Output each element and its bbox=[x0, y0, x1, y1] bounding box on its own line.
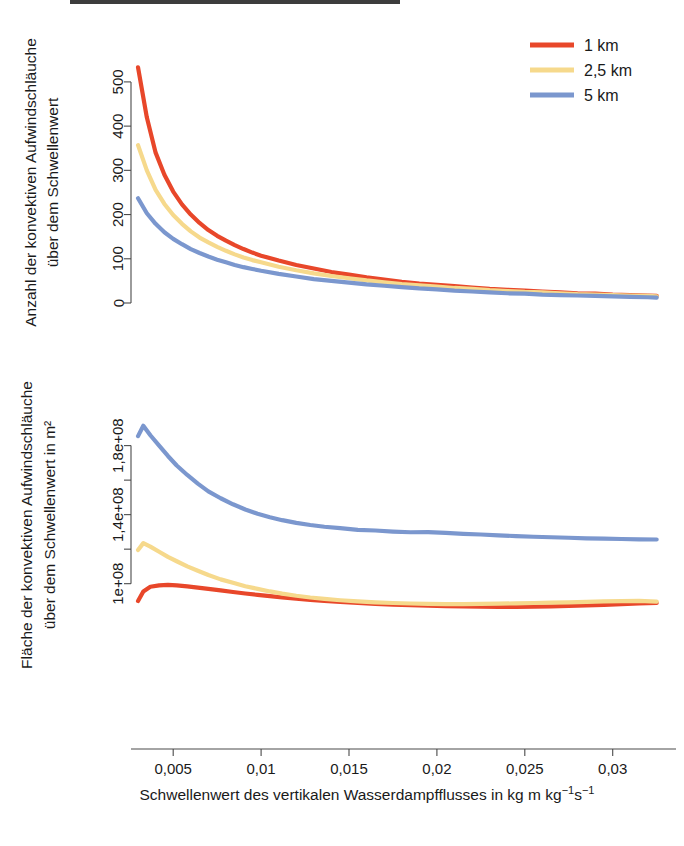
y-axis-tick-label: 200 bbox=[110, 202, 127, 227]
x-axis-title: Schwellenwert des vertikalen Wasserdampf… bbox=[140, 784, 595, 803]
y-axis-tick-label: 400 bbox=[110, 114, 127, 139]
y-axis-title-line2: über dem Schwellenwert bbox=[44, 97, 61, 267]
legend-item-5km-label: 5 km bbox=[584, 87, 619, 104]
y-axis-tick-label: 1e+08 bbox=[110, 563, 127, 605]
y-axis-tick-label: 100 bbox=[110, 246, 127, 271]
y-axis-tick-label: 300 bbox=[110, 158, 127, 183]
x-axis-tick-label: 0,015 bbox=[330, 760, 368, 777]
x-axis-tick-label: 0,005 bbox=[154, 760, 192, 777]
chart-svg: 0100200300400500Anzahl der konvektiven A… bbox=[0, 0, 684, 846]
page-top-band bbox=[70, 0, 400, 4]
y-axis-title-line1: Anzahl der konvektiven Aufwindschläuche bbox=[22, 38, 39, 327]
y-axis-title-line2: über dem Schwellenwert in m² bbox=[41, 421, 58, 629]
y-axis-tick-label: 0 bbox=[110, 299, 127, 307]
y-axis-title-line1: Fläche der konvektiven Aufwindschläuche bbox=[18, 381, 35, 669]
x-axis-tick-label: 0,03 bbox=[598, 760, 627, 777]
figure-background bbox=[0, 0, 684, 846]
y-axis-tick-label: 1,8e+08 bbox=[110, 418, 127, 473]
y-axis-tick-label: 1,4e+08 bbox=[110, 487, 127, 542]
legend-item-1km-label: 1 km bbox=[584, 37, 619, 54]
x-axis-tick-label: 0,025 bbox=[506, 760, 544, 777]
x-axis-tick-label: 0,02 bbox=[422, 760, 451, 777]
y-axis-tick-label: 500 bbox=[110, 69, 127, 94]
figure-container: 0100200300400500Anzahl der konvektiven A… bbox=[0, 0, 684, 846]
legend-item-25km-label: 2,5 km bbox=[584, 62, 632, 79]
x-axis-tick-label: 0,01 bbox=[246, 760, 275, 777]
